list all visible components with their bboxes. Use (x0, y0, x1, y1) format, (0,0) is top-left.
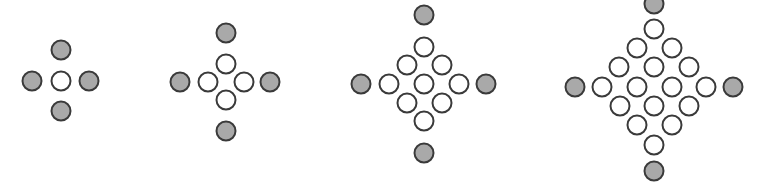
gray-circle (216, 23, 237, 44)
white-circle (397, 93, 418, 114)
gray-circle (51, 101, 72, 122)
gray-circle (22, 71, 43, 92)
gray-circle (216, 121, 237, 142)
white-circle (644, 96, 665, 117)
white-circle (662, 115, 683, 136)
white-circle (610, 96, 631, 117)
white-circle (627, 77, 648, 98)
gray-circle (723, 77, 744, 98)
gray-circle (170, 72, 191, 93)
white-circle (644, 57, 665, 78)
white-circle (432, 55, 453, 76)
white-circle (432, 93, 453, 114)
gray-circle (414, 5, 435, 26)
white-circle (592, 77, 613, 98)
circle-pattern-sequence (0, 0, 763, 193)
gray-circle (79, 71, 100, 92)
white-circle (679, 96, 700, 117)
white-circle (414, 111, 435, 132)
gray-circle (351, 74, 372, 95)
white-circle (627, 38, 648, 59)
white-circle (662, 38, 683, 59)
white-circle (397, 55, 418, 76)
gray-circle (51, 40, 72, 61)
gray-circle (260, 72, 281, 93)
gray-circle (414, 143, 435, 164)
white-circle (609, 57, 630, 78)
white-circle (627, 115, 648, 136)
white-circle (51, 71, 72, 92)
white-circle (696, 77, 717, 98)
white-circle (414, 74, 435, 95)
gray-circle (644, 0, 665, 15)
white-circle (644, 19, 665, 40)
white-circle (234, 72, 255, 93)
white-circle (216, 54, 237, 75)
gray-circle (565, 77, 586, 98)
gray-circle (644, 161, 665, 182)
white-circle (198, 72, 219, 93)
white-circle (379, 74, 400, 95)
white-circle (449, 74, 470, 95)
gray-circle (476, 74, 497, 95)
white-circle (644, 135, 665, 156)
white-circle (662, 77, 683, 98)
white-circle (679, 57, 700, 78)
white-circle (414, 37, 435, 58)
white-circle (216, 90, 237, 111)
